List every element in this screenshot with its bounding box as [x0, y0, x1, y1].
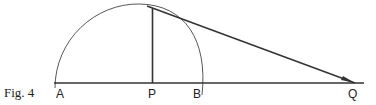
label-A: A	[56, 88, 64, 100]
semicircle-arc	[55, 4, 203, 95]
arrowhead	[341, 76, 355, 83]
tangent-line	[147, 6, 355, 83]
label-P: P	[148, 88, 156, 100]
label-B: B	[193, 88, 201, 100]
figure-caption: Fig. 4	[4, 86, 34, 99]
label-Q: Q	[348, 88, 357, 100]
figure-4: Fig. 4 A P B Q	[0, 0, 376, 105]
